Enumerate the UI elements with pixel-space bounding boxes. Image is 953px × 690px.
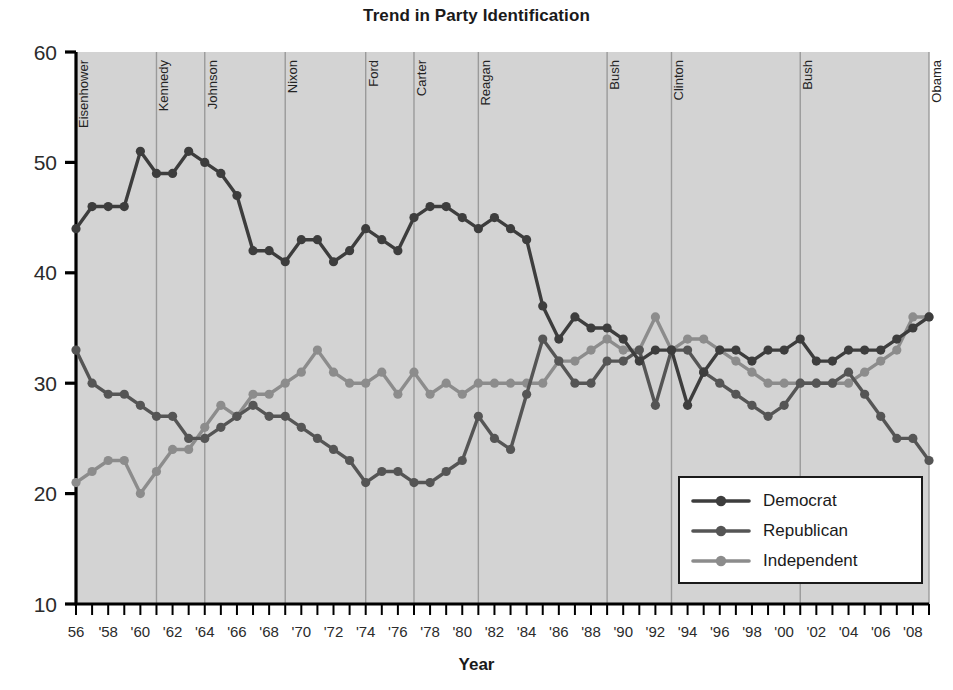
x-axis-tick-label: '66 [227,623,247,640]
legend-label: Independent [763,551,858,570]
president-label: Johnson [205,60,220,109]
data-point [442,467,451,476]
data-point [87,467,96,476]
data-point [87,202,96,211]
data-point [747,368,756,377]
data-point [506,445,515,454]
data-point [876,345,885,354]
y-axis-tick-label: 40 [34,261,57,284]
data-point [442,379,451,388]
data-point [425,202,434,211]
data-point [490,434,499,443]
data-point [538,301,547,310]
data-point [828,357,837,366]
data-point [248,246,257,255]
data-point [635,357,644,366]
data-point [651,401,660,410]
x-axis-tick-label: '02 [807,623,827,640]
data-point [538,379,547,388]
data-point [104,202,113,211]
y-axis-tick-label: 60 [34,41,57,64]
data-point [71,345,80,354]
data-point [828,379,837,388]
data-point [377,467,386,476]
x-axis-tick-label: '78 [420,623,440,640]
data-point [474,412,483,421]
data-point [71,224,80,233]
data-point [168,445,177,454]
party-identification-line-chart: 56'58'60'62'64'66'68'70'72'74'76'78'80'8… [0,0,953,690]
data-point [297,368,306,377]
legend-marker [716,556,726,566]
data-point [715,379,724,388]
data-point [603,334,612,343]
data-point [908,323,917,332]
data-point [763,379,772,388]
data-point [474,379,483,388]
data-point [393,467,402,476]
data-point [345,456,354,465]
x-axis-tick-label: '86 [549,623,569,640]
data-point [699,334,708,343]
x-axis-tick-label: '70 [292,623,312,640]
x-axis-tick-label: '96 [710,623,730,640]
x-axis-tick-label: '08 [903,623,923,640]
x-axis-tick-label: '98 [742,623,762,640]
data-point [635,345,644,354]
president-label: Bush [607,60,622,90]
x-axis-tick-label: '82 [485,623,505,640]
data-point [812,357,821,366]
data-point [136,401,145,410]
data-point [136,147,145,156]
data-point [796,379,805,388]
data-point [248,401,257,410]
data-point [200,423,209,432]
x-axis-tick-label: '94 [678,623,698,640]
data-point [924,456,933,465]
x-axis-tick-label: '72 [324,623,344,640]
data-point [184,434,193,443]
data-point [216,169,225,178]
data-point [683,334,692,343]
data-point [409,213,418,222]
data-point [522,390,531,399]
data-point [313,434,322,443]
x-axis-tick-label: '62 [163,623,183,640]
x-axis-tick-label: '58 [98,623,118,640]
data-point [860,368,869,377]
data-point [683,401,692,410]
data-point [570,312,579,321]
data-point [506,224,515,233]
y-axis-tick-label: 50 [34,151,57,174]
y-axis-ticks: 102030405060 [34,41,76,616]
data-point [377,235,386,244]
data-point [860,390,869,399]
data-point [892,334,901,343]
data-point [892,345,901,354]
y-axis-tick-label: 30 [34,372,57,395]
data-point [87,379,96,388]
data-point [265,390,274,399]
data-point [281,257,290,266]
x-axis-tick-label: '74 [356,623,376,640]
data-point [586,379,595,388]
data-point [603,357,612,366]
data-point [747,401,756,410]
data-point [796,334,805,343]
data-point [345,379,354,388]
data-point [603,323,612,332]
data-point [554,334,563,343]
data-point [232,412,241,421]
x-axis-tick-label: '88 [581,623,601,640]
data-point [248,390,257,399]
data-point [780,379,789,388]
data-point [490,379,499,388]
data-point [763,345,772,354]
chart-legend: DemocratRepublicanIndependent [679,477,922,583]
data-point [892,434,901,443]
data-point [361,478,370,487]
legend-marker [716,526,726,536]
x-axis-tick-label: 56 [68,623,85,640]
x-axis-tick-label: '76 [388,623,408,640]
data-point [120,456,129,465]
